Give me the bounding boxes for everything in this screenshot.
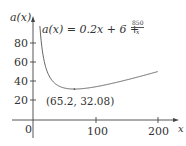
y-tick-label: 80 [14, 38, 28, 49]
x-tick-label: 100 [87, 126, 108, 137]
function-fraction: 850 x [131, 20, 144, 35]
origin-label: 0 [25, 124, 32, 135]
x-axis-label: x [178, 124, 184, 134]
minimum-point-annotation: (65.2, 32.08) [46, 96, 114, 107]
fraction-numerator: 850 [131, 20, 144, 28]
y-axis-label: a(x) [10, 12, 31, 23]
x-tick-label: 200 [148, 126, 169, 137]
y-tick-label: 40 [14, 76, 28, 87]
x-axis-arrow-icon [173, 118, 179, 122]
y-tick-label: 60 [14, 57, 28, 68]
y-tick-label: 20 [14, 95, 28, 106]
fraction-denominator: x [136, 28, 139, 35]
y-axis-arrow-icon [31, 16, 35, 22]
minimum-point-marker [74, 88, 76, 90]
function-label-lhs: a(x) = 0.2x + 6 + [42, 23, 139, 36]
function-label: a(x) = 0.2x + 6 + [42, 24, 139, 35]
